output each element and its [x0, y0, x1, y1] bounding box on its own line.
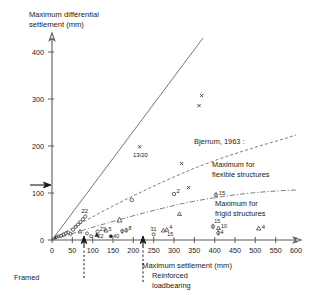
- y-axis-ticks: 0 100 200 300 400: [32, 48, 54, 245]
- y-tick-label-400: 400: [32, 48, 44, 57]
- x-tick-label-450: 450: [229, 246, 241, 255]
- data-point-label: 10: [221, 223, 227, 229]
- data-point-marker: [172, 192, 175, 195]
- data-point-label: 4: [169, 224, 172, 230]
- y-axis: [49, 33, 54, 240]
- data-point-marker: [78, 229, 82, 233]
- data-point-marker: [90, 235, 93, 238]
- framed-threshold-arrow: [81, 236, 86, 278]
- data-point-label: 8: [129, 225, 132, 231]
- data-point-label: 40: [113, 233, 119, 239]
- source-note-label: Bjerrum, 1963 :: [194, 137, 245, 146]
- data-point-label: 4: [262, 224, 266, 230]
- data-point-marker: [138, 145, 141, 148]
- data-point-marker: [257, 226, 261, 230]
- y-tick-label-300: 300: [32, 95, 44, 104]
- y-axis-title-line2: settlement (mm): [29, 20, 84, 29]
- x-tick-label-0: 0: [50, 246, 54, 255]
- framed-category-label: Framed: [14, 273, 39, 282]
- x-axis-title: Maximum settlement (mm): [142, 261, 232, 270]
- x-axis: [52, 237, 301, 242]
- x-tick-label-250: 250: [148, 246, 160, 255]
- reinforced-threshold-arrow: [140, 236, 145, 282]
- ratio-annotation-label: 13/20: [133, 152, 148, 158]
- x-tick-label-500: 500: [249, 246, 261, 255]
- chart-root: Maximum différential settlement (mm) 0 1…: [0, 0, 310, 295]
- x-tick-label-300: 300: [168, 246, 180, 255]
- y-tick-label-0: 0: [40, 236, 44, 245]
- x-tick-label-400: 400: [209, 246, 221, 255]
- data-point-marker: [84, 215, 87, 218]
- data-point-marker: [178, 212, 182, 216]
- data-point-marker: [187, 186, 190, 189]
- reinforced-category-label-2: loadbearing: [152, 281, 191, 290]
- data-point-marker: [81, 218, 84, 221]
- flexible-label-line2: flexible structures: [212, 170, 270, 179]
- data-point-label: 15: [219, 190, 226, 196]
- settlement-scatter-chart: Maximum différential settlement (mm) 0 1…: [0, 0, 310, 295]
- data-point-marker: [125, 228, 128, 233]
- y-axis-title-line1: Maximum différential: [29, 10, 99, 19]
- data-point-marker: [130, 198, 134, 202]
- x-tick-label-550: 550: [270, 246, 282, 255]
- data-point-label: 2: [177, 188, 180, 194]
- flexible-structures-curve: [52, 135, 296, 240]
- flexible-label-line1: Maximum for: [212, 160, 255, 169]
- data-point-label: 15: [167, 231, 173, 237]
- x-tick-label-600: 600: [290, 246, 302, 255]
- data-point-label: 15: [214, 218, 220, 224]
- data-point-marker: [117, 217, 122, 222]
- data-point-marker: [152, 233, 155, 236]
- frigid-label-line1: Maximum for: [215, 199, 258, 208]
- upper-bound-line: [52, 38, 203, 240]
- data-point-marker: [109, 235, 112, 238]
- data-point-marker: [198, 104, 201, 107]
- data-point-label: 31: [150, 226, 156, 232]
- reinforced-category-label-1: Reinforced: [152, 271, 188, 280]
- data-point-label: 22: [98, 233, 104, 239]
- data-point-label: 4: [220, 229, 223, 235]
- data-point-marker: [121, 229, 124, 234]
- y-tick-label-200: 200: [32, 142, 44, 151]
- x-tick-label-200: 200: [127, 246, 139, 255]
- x-tick-label-350: 350: [188, 246, 200, 255]
- data-point-marker: [180, 162, 183, 165]
- y-tick-label-100: 100: [32, 189, 44, 198]
- data-point-marker: [86, 232, 89, 235]
- y-axis-threshold-arrow: [30, 182, 51, 187]
- data-point-marker: [211, 224, 214, 229]
- x-tick-label-50: 50: [68, 246, 76, 255]
- data-point-marker: [72, 228, 75, 231]
- data-point-label: 22: [82, 208, 89, 214]
- frigid-label-line2: frigid structures: [215, 209, 266, 218]
- data-point-label: 5: [109, 226, 112, 232]
- x-tick-label-150: 150: [107, 246, 119, 255]
- data-point-marker: [200, 94, 203, 97]
- x-tick-label-100: 100: [87, 246, 99, 255]
